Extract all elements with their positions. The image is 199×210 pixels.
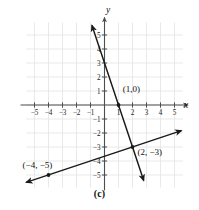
data-point-dot <box>47 173 51 177</box>
x-tick-label: 2 <box>131 109 135 117</box>
data-point-dot <box>131 145 135 149</box>
point-label: (1,0) <box>123 84 140 94</box>
y-tick-label: 5 <box>97 32 101 40</box>
y-axis-label: y <box>105 5 111 15</box>
figure-caption: (c) <box>0 188 199 199</box>
x-tick-label: 3 <box>145 109 149 117</box>
x-tick-label: 5 <box>173 109 177 117</box>
y-tick-label: −1 <box>93 116 101 124</box>
y-tick-label: 2 <box>97 74 101 82</box>
y-tick-label: 3 <box>97 60 101 68</box>
x-axis-label: x <box>183 100 189 110</box>
point-label: (−4, −5) <box>23 160 53 170</box>
y-tick-label: −5 <box>93 172 101 180</box>
data-point-dot <box>117 103 121 107</box>
figure-container: −5−4−3−2−112345−5−4−3−2−112345 (1,0)(2, … <box>0 0 199 210</box>
x-tick-label: −3 <box>59 109 67 117</box>
x-tick-label: −2 <box>73 109 81 117</box>
x-tick-label: −4 <box>45 109 53 117</box>
y-tick-label: −2 <box>93 130 101 138</box>
y-tick-label: −3 <box>93 144 101 152</box>
y-tick-label: 1 <box>97 88 101 96</box>
x-tick-label: −5 <box>31 109 39 117</box>
x-tick-label: 4 <box>159 109 163 117</box>
coordinate-plane-chart: −5−4−3−2−112345−5−4−3−2−112345 (1,0)(2, … <box>0 0 199 210</box>
point-label: (2, −3) <box>137 147 162 157</box>
